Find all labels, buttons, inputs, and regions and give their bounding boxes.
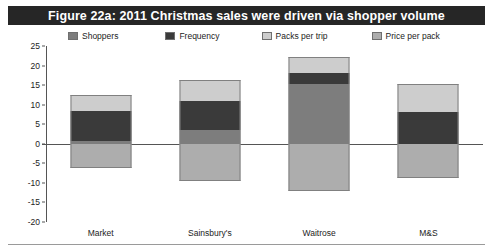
legend-item-price-per-pack: Price per pack — [372, 31, 440, 41]
y-tick-label: 25 — [31, 41, 40, 51]
stacked-bar[interactable] — [179, 46, 240, 222]
bar-segment-price-per-pack[interactable] — [179, 144, 240, 181]
y-tick-mark — [42, 182, 45, 183]
bar-segment-frequency[interactable] — [398, 112, 459, 144]
legend-swatch-price-per-pack — [372, 32, 382, 40]
y-tick-label: 10 — [31, 100, 40, 110]
bar-segment-packs-per-trip[interactable] — [179, 80, 240, 100]
bar-segment-frequency[interactable] — [179, 101, 240, 130]
bar-segment-packs-per-trip[interactable] — [70, 95, 131, 111]
x-axis-label: M&S — [374, 228, 483, 244]
y-tick-label: 0 — [35, 139, 40, 149]
x-axis-label: Market — [46, 228, 155, 244]
y-tick-label: 5 — [35, 119, 40, 129]
x-axis-label: Waitrose — [265, 228, 374, 244]
y-tick-mark — [42, 163, 45, 164]
bar-segment-frequency[interactable] — [289, 73, 350, 85]
legend-swatch-frequency — [165, 32, 175, 40]
legend-swatch-shoppers — [68, 32, 78, 40]
y-tick-mark — [42, 124, 45, 125]
legend-item-frequency: Frequency — [165, 31, 219, 41]
legend-label-shoppers: Shoppers — [82, 31, 118, 41]
y-tick-mark — [42, 46, 45, 47]
bar-segment-price-per-pack[interactable] — [289, 144, 350, 192]
legend-label-frequency: Frequency — [179, 31, 219, 41]
y-tick-label: -5 — [32, 158, 40, 168]
y-tick-mark — [42, 104, 45, 105]
y-tick-mark — [42, 65, 45, 66]
bar-segment-packs-per-trip[interactable] — [289, 57, 350, 72]
bar-series-group — [46, 46, 483, 222]
legend-swatch-packs-per-trip — [262, 32, 272, 40]
axis-area: 2520151050-5-10-15-20 — [46, 46, 483, 222]
bar-segment-shoppers[interactable] — [289, 84, 350, 143]
y-tick-mark — [42, 85, 45, 86]
bar-group-market[interactable] — [46, 46, 155, 222]
y-tick-label: -20 — [28, 217, 40, 227]
figure-container: Figure 22a: 2011 Christmas sales were dr… — [0, 0, 493, 252]
y-tick-label: 20 — [31, 61, 40, 71]
y-tick-mark — [42, 222, 45, 223]
x-axis-labels: MarketSainsbury'sWaitroseM&S — [46, 228, 483, 244]
y-tick-label: -15 — [28, 197, 40, 207]
y-tick-label: 15 — [31, 80, 40, 90]
plot-area: 2520151050-5-10-15-20 MarketSainsbury'sW… — [0, 44, 493, 230]
bar-segment-frequency[interactable] — [70, 111, 131, 142]
bar-segment-price-per-pack[interactable] — [398, 144, 459, 178]
bottom-divider — [8, 244, 485, 245]
bar-group-m-s[interactable] — [374, 46, 483, 222]
stacked-bar[interactable] — [70, 46, 131, 222]
x-axis-label: Sainsbury's — [155, 228, 264, 244]
bar-group-waitrose[interactable] — [265, 46, 374, 222]
page-title: Figure 22a: 2011 Christmas sales were dr… — [48, 9, 445, 23]
stacked-bar[interactable] — [289, 46, 350, 222]
y-tick-label: -10 — [28, 178, 40, 188]
legend-label-packs-per-trip: Packs per trip — [276, 31, 328, 41]
bar-group-sainsbury-s[interactable] — [155, 46, 264, 222]
bar-segment-price-per-pack[interactable] — [70, 144, 131, 168]
bar-segment-shoppers[interactable] — [179, 130, 240, 144]
y-tick-mark — [42, 202, 45, 203]
bar-segment-packs-per-trip[interactable] — [398, 84, 459, 111]
legend-item-shoppers: Shoppers — [68, 31, 118, 41]
legend-item-packs-per-trip: Packs per trip — [262, 31, 328, 41]
stacked-bar[interactable] — [398, 46, 459, 222]
figure-title-bar: Figure 22a: 2011 Christmas sales were dr… — [8, 6, 485, 25]
chart-legend: Shoppers Frequency Packs per trip Price … — [8, 28, 485, 43]
legend-label-price-per-pack: Price per pack — [386, 31, 440, 41]
